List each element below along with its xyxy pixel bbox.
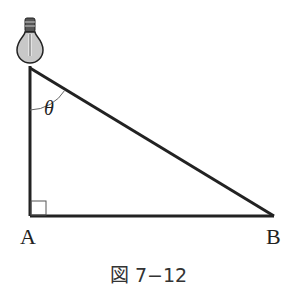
side-hypotenuse xyxy=(30,68,274,216)
right-angle-marker xyxy=(31,201,46,215)
light-bulb-icon xyxy=(17,18,43,63)
point-a-label: A xyxy=(20,224,36,250)
triangle-diagram xyxy=(0,0,297,300)
figure-caption: 図 7−12 xyxy=(0,260,297,287)
point-b-label: B xyxy=(266,224,281,250)
angle-theta-label: θ xyxy=(44,97,54,120)
